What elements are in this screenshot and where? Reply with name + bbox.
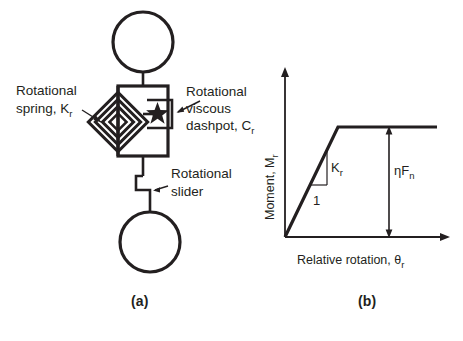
chart-x-axis xyxy=(285,233,450,241)
dashpot-star-icon xyxy=(146,102,169,124)
figure-root: Rotational spring, Kr Rotational viscous… xyxy=(0,0,463,341)
slider-label-line1: Rotational xyxy=(171,166,232,181)
yield-moment-arrow xyxy=(386,126,393,238)
dashpot-label-line3: dashpot, Cr xyxy=(186,118,254,136)
slope-run-label: 1 xyxy=(313,193,320,208)
chart-y-axis xyxy=(281,67,289,237)
chart-x-axis-label: Relative rotation, θr xyxy=(297,253,404,270)
moment-rotation-curve xyxy=(285,127,437,237)
chart-y-axis-label: Moment, Mr xyxy=(263,154,280,220)
spring-label-line1: Rotational xyxy=(16,83,77,98)
slider-leader-arrow xyxy=(153,186,168,193)
panel-b-caption: (b) xyxy=(358,293,376,309)
slope-label: Kr xyxy=(331,160,343,178)
slider-path xyxy=(136,176,150,203)
panel-a-caption: (a) xyxy=(131,293,149,309)
panel-b-group: Kr 1 ηFn Moment, Mr Relative rotation, θ… xyxy=(263,67,450,309)
panel-a-group: Rotational spring, Kr Rotational viscous… xyxy=(16,12,254,309)
dashpot-label-line1: Rotational xyxy=(186,84,247,99)
rotational-slider-jog xyxy=(136,176,150,203)
slider-label-line2: slider xyxy=(171,184,204,199)
upper-particle-circle xyxy=(113,12,173,72)
dashpot-label-line2: viscous xyxy=(186,101,231,116)
yield-moment-label: ηFn xyxy=(394,163,414,181)
figure-svg: Rotational spring, Kr Rotational viscous… xyxy=(0,0,463,341)
lower-particle-circle xyxy=(120,212,180,272)
spring-label-line2: spring, Kr xyxy=(16,101,72,119)
